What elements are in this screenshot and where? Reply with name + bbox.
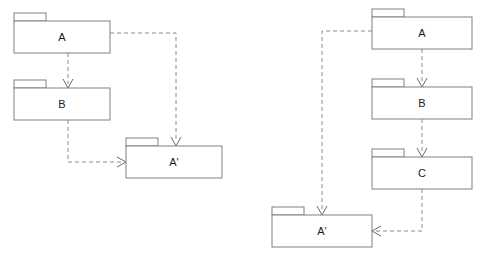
dependency-edge-c-to-aprime (376, 189, 422, 231)
package-label: A (418, 27, 426, 39)
package-label: C (418, 167, 426, 179)
package-node-right-c[interactable]: C (372, 149, 472, 189)
package-tab (372, 79, 404, 87)
package-label: B (58, 98, 65, 110)
dependency-edge-a-to-aprime (322, 31, 372, 211)
package-tab (272, 207, 304, 215)
package-label: B (418, 97, 425, 109)
dependency-edge-a-to-aprime (110, 33, 176, 142)
dependency-edge-b-to-aprime (68, 120, 122, 162)
left-diagram-group: ABA' (14, 13, 222, 178)
right-diagram-group: ABCA' (272, 9, 472, 247)
package-label: A (58, 31, 66, 43)
package-node-right-aprime[interactable]: A' (272, 207, 372, 247)
package-node-right-b[interactable]: B (372, 79, 472, 119)
package-node-right-a[interactable]: A (372, 9, 472, 49)
package-tab (126, 138, 158, 146)
package-node-left-aprime[interactable]: A' (126, 138, 222, 178)
package-label: A' (169, 156, 178, 168)
package-node-left-a[interactable]: A (14, 13, 110, 53)
package-tab (14, 13, 46, 21)
package-tab (372, 149, 404, 157)
package-tab (372, 9, 404, 17)
package-label: A' (317, 225, 326, 237)
package-tab (14, 80, 46, 88)
uml-package-diagram: ABA' ABCA' (0, 0, 486, 257)
package-node-left-b[interactable]: B (14, 80, 110, 120)
